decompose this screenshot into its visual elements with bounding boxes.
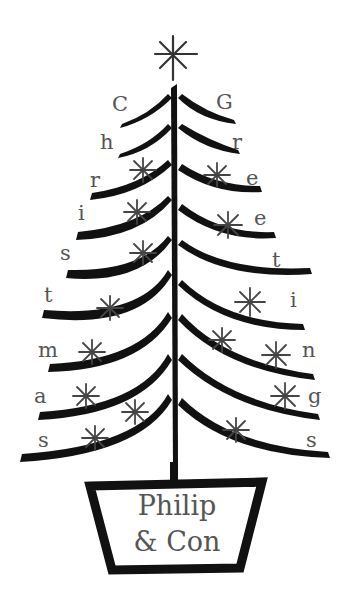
letter-right-n: n — [302, 340, 316, 361]
pot-name-line1: Philip — [102, 492, 252, 519]
letter-left-h: h — [100, 132, 114, 153]
letter-right-s: s — [306, 430, 317, 451]
letter-right-e: e — [246, 168, 258, 189]
letter-right-t: t — [272, 250, 280, 271]
letter-left-s2: s — [38, 430, 49, 451]
letter-left-r: r — [90, 170, 100, 191]
letter-right-g: g — [308, 386, 321, 407]
letter-left-t: t — [44, 285, 52, 306]
letter-left-i: i — [78, 203, 85, 224]
letter-left-C: C — [112, 94, 128, 115]
letter-right-G: G — [216, 92, 233, 113]
tree-trunk — [171, 84, 178, 470]
letter-right-i: i — [290, 290, 297, 311]
letter-left-s: s — [60, 243, 71, 264]
letter-left-m: m — [38, 340, 58, 361]
top-star-icon — [155, 36, 197, 80]
letter-left-a: a — [34, 386, 47, 407]
pot-name-line2: & Con — [102, 528, 252, 555]
letter-right-e2: e — [254, 208, 266, 229]
letter-right-r: r — [232, 132, 242, 153]
